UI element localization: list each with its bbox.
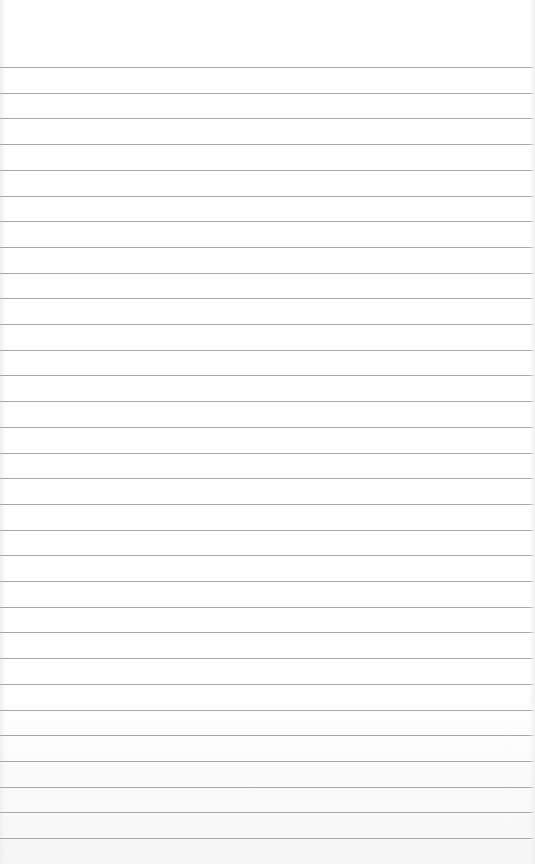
- lined-paper: [0, 0, 535, 864]
- ruled-line: [0, 478, 535, 479]
- ruled-line: [0, 581, 535, 582]
- ruled-line: [0, 170, 535, 171]
- ruled-line: [0, 350, 535, 351]
- ruled-line: [0, 555, 535, 556]
- ruled-line: [0, 298, 535, 299]
- ruled-line: [0, 761, 535, 762]
- ruled-line: [0, 118, 535, 119]
- ruled-line: [0, 324, 535, 325]
- ruled-line: [0, 144, 535, 145]
- ruled-line: [0, 735, 535, 736]
- ruled-line: [0, 607, 535, 608]
- ruled-line: [0, 504, 535, 505]
- ruled-line: [0, 273, 535, 274]
- ruled-line: [0, 196, 535, 197]
- ruled-line: [0, 838, 535, 839]
- ruled-line: [0, 427, 535, 428]
- ruled-line: [0, 710, 535, 711]
- ruled-line: [0, 375, 535, 376]
- ruled-line: [0, 632, 535, 633]
- ruled-line: [0, 453, 535, 454]
- ruled-line: [0, 812, 535, 813]
- ruled-line: [0, 67, 535, 68]
- ruled-line: [0, 247, 535, 248]
- ruled-line: [0, 658, 535, 659]
- ruled-line: [0, 401, 535, 402]
- ruled-line: [0, 530, 535, 531]
- ruled-line: [0, 787, 535, 788]
- ruled-line: [0, 684, 535, 685]
- ruled-line: [0, 93, 535, 94]
- ruled-line: [0, 221, 535, 222]
